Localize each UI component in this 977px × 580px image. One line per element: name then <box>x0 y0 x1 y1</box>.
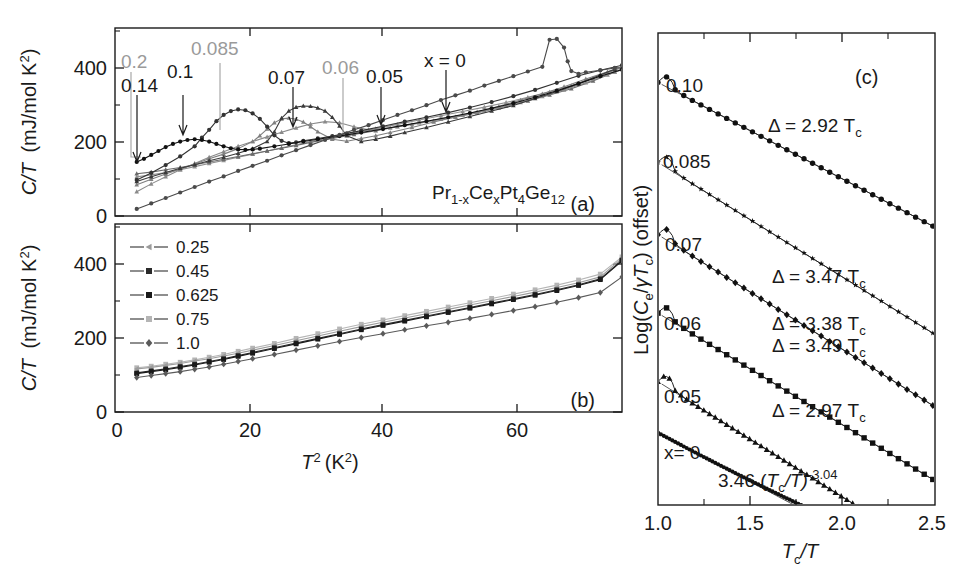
figure-container: 0 200 400 C/T (mJ/mol K2) <box>0 0 977 580</box>
panel-b-ylabel-sup: 2 <box>17 251 32 258</box>
panel-b-ylabel-units: (mJ/mol K <box>18 258 40 349</box>
panel-a-ytick-400: 400 <box>74 57 107 79</box>
panel-c-xtick-2_0: 2.0 <box>828 512 856 534</box>
panel-a-ytick-200: 200 <box>74 131 107 153</box>
panel-a-ytick-0: 0 <box>96 205 107 227</box>
panel-a-label-0_05: 0.05 <box>366 66 403 87</box>
legend-label: 0.25 <box>176 238 209 257</box>
panel-a-label-0_14: 0.14 <box>121 75 158 96</box>
panel-c-label-0_10: 0.10 <box>666 75 703 96</box>
panel-b-xlabel: T2(K2) <box>301 450 358 473</box>
panel-a-ylabel-units: (mJ/mol K <box>18 62 40 153</box>
panel-b-ytick-200: 200 <box>74 327 107 349</box>
panel-a-label-0_2: 0.2 <box>121 51 147 72</box>
legend-label: 0.625 <box>176 286 219 305</box>
panel-b-xtick-60: 60 <box>506 419 528 441</box>
panel-a-ylabel-sup: 2 <box>17 55 32 62</box>
panel-c-xtick-1_5: 1.5 <box>736 512 764 534</box>
panel-c: 1.0 1.5 2.0 2.5 Tc/T Log(Ce/γTc) (offset… <box>630 33 946 580</box>
panel-a-ylabel-end: ) <box>18 49 40 56</box>
panel-b-xtick-0: 0 <box>111 419 122 441</box>
svg-text:C/T (mJ/mol K2): C/T (mJ/mol K2) <box>17 245 40 392</box>
panel-b-tag: (b) <box>571 389 595 411</box>
panel-b-xtick-20: 20 <box>239 419 261 441</box>
panel-a-label-0_07: 0.07 <box>268 67 305 88</box>
panel-c-ylabel: Log(Ce/γTc) (offset) <box>630 185 656 355</box>
panel-c-label-0_07: 0.07 <box>665 234 702 255</box>
svg-text:Log(Ce/γTc) (offset): Log(Ce/γTc) (offset) <box>630 185 656 355</box>
svg-text:C/T (mJ/mol K2): C/T (mJ/mol K2) <box>17 49 40 196</box>
panel-b-ylabel-end: ) <box>18 245 40 252</box>
panel-a-tag: (a) <box>571 193 595 215</box>
panel-c-xtick-2_5: 2.5 <box>918 512 946 534</box>
figure-svg: 0 200 400 C/T (mJ/mol K2) <box>0 0 977 580</box>
panel-c-label-0_085: 0.085 <box>663 151 711 172</box>
panel-a-label-0_085: 0.085 <box>191 38 239 59</box>
panel-a-label-x0: x = 0 <box>424 50 466 71</box>
panel-a-ylabel-main: C/T <box>18 161 40 195</box>
legend-label: 0.75 <box>176 310 209 329</box>
panel-c-label-x0: x= 0 <box>664 442 700 463</box>
panel-a-label-0_1: 0.1 <box>167 61 193 82</box>
panel-b-ylabel: C/T (mJ/mol K2) <box>17 245 40 392</box>
panel-b: 0 200 400 0 20 40 60 C/T (mJ/mol K2) <box>17 224 625 473</box>
panel-b-xtick-40: 40 <box>371 419 393 441</box>
legend-label: 1.0 <box>176 334 200 353</box>
panel-c-label-0_06: 0.06 <box>664 313 701 334</box>
legend-label: 0.45 <box>176 262 209 281</box>
panel-b-ylabel-main: C/T <box>18 357 40 391</box>
panel-a-label-0_06: 0.06 <box>322 57 359 78</box>
panel-c-xlabel: Tc/T <box>782 540 820 567</box>
panel-a: 0 200 400 C/T (mJ/mol K2) <box>17 28 624 227</box>
panel-c-xtick-1_0: 1.0 <box>644 512 672 534</box>
panel-b-ytick-0: 0 <box>96 401 107 423</box>
panel-b-ytick-400: 400 <box>74 253 107 275</box>
panel-c-label-0_05: 0.05 <box>664 386 701 407</box>
panel-c-tag: (c) <box>855 66 878 88</box>
panel-a-ylabel: C/T (mJ/mol K2) <box>17 49 40 196</box>
